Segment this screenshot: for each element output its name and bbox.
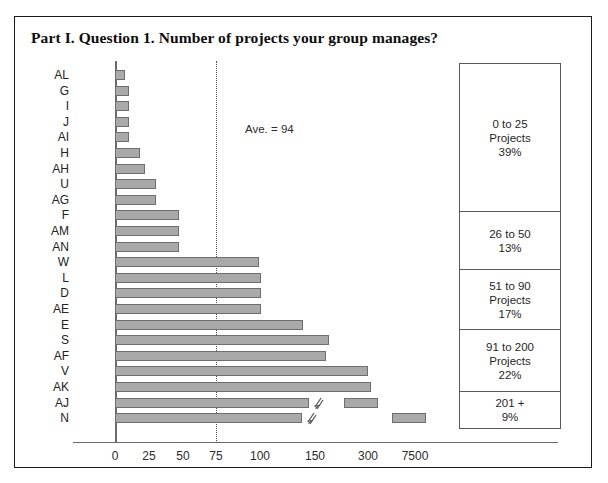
bar xyxy=(115,242,179,252)
legend-category-box: 26 to 5013% xyxy=(460,212,560,270)
bar xyxy=(115,226,179,236)
bar xyxy=(115,70,125,80)
bar-category-label: AI xyxy=(9,130,69,145)
legend-percent: 22% xyxy=(498,368,521,382)
x-tick-label: 75 xyxy=(209,449,222,463)
bar-category-label: N xyxy=(9,411,69,426)
bar-category-label: G xyxy=(9,84,69,99)
bar xyxy=(115,382,371,392)
bar-category-label: S xyxy=(9,333,69,348)
legend-unit: Projects xyxy=(489,131,531,145)
legend-unit: Projects xyxy=(489,293,531,307)
legend-category-stack: 0 to 25Projects39%26 to 5013%51 to 90Pro… xyxy=(459,63,561,429)
legend-range: 201 + xyxy=(495,396,524,410)
bar xyxy=(115,398,309,408)
bar-category-label: D xyxy=(9,286,69,301)
x-tick-label: 150 xyxy=(305,449,325,463)
bar xyxy=(115,288,261,298)
bar-category-label: H xyxy=(9,146,69,161)
bar xyxy=(115,101,129,111)
bar xyxy=(115,148,140,158)
bar xyxy=(115,117,129,127)
x-tick-label: 0 xyxy=(112,449,119,463)
chart-title: Part I. Question 1. Number of projects y… xyxy=(31,29,438,47)
bar-category-label: AE xyxy=(9,302,69,317)
x-tick-label: 300 xyxy=(358,449,378,463)
figure-frame: Part I. Question 1. Number of projects y… xyxy=(14,16,592,468)
x-tick-label: 50 xyxy=(176,449,189,463)
legend-percent: 9% xyxy=(502,410,519,424)
bar-category-label: F xyxy=(9,208,69,223)
bar-category-label: V xyxy=(9,364,69,379)
legend-range: 91 to 200 xyxy=(486,340,534,354)
bar xyxy=(115,195,156,205)
legend-category-box: 91 to 200Projects22% xyxy=(460,330,560,392)
bar-category-label: AM xyxy=(9,224,69,239)
legend-range: 51 to 90 xyxy=(489,279,531,293)
legend-unit: Projects xyxy=(489,354,531,368)
legend-range: 26 to 50 xyxy=(489,227,531,241)
bar-category-label: AN xyxy=(9,240,69,255)
bar-category-label: J xyxy=(9,115,69,130)
bar-category-label: AF xyxy=(9,349,69,364)
legend-percent: 39% xyxy=(498,145,521,159)
axis-break-mark xyxy=(314,395,327,412)
bar-category-label: I xyxy=(9,99,69,114)
bar xyxy=(115,86,129,96)
bar xyxy=(115,304,261,314)
bar xyxy=(115,351,326,361)
axis-break-mark xyxy=(307,410,320,427)
bar xyxy=(115,335,329,345)
bar xyxy=(115,413,302,423)
bar-category-label: E xyxy=(9,318,69,333)
bar xyxy=(115,366,368,376)
legend-category-box: 51 to 90Projects17% xyxy=(460,270,560,330)
bar xyxy=(115,320,303,330)
bar-category-label: AK xyxy=(9,380,69,395)
bar-category-label: U xyxy=(9,177,69,192)
legend-percent: 13% xyxy=(498,241,521,255)
bar-category-label: AH xyxy=(9,162,69,177)
x-tick-label: 25 xyxy=(142,449,155,463)
bar xyxy=(115,179,156,189)
bar xyxy=(115,164,145,174)
bar xyxy=(115,132,129,142)
bar xyxy=(115,257,259,267)
x-tick-label: 100 xyxy=(250,449,270,463)
legend-range: 0 to 25 xyxy=(492,117,527,131)
bar xyxy=(115,273,261,283)
bar xyxy=(115,210,179,220)
bar-category-label: AJ xyxy=(9,396,69,411)
bar-category-label: W xyxy=(9,255,69,270)
x-axis-line xyxy=(73,442,558,444)
x-tick-label: 7500 xyxy=(402,449,429,463)
legend-category-box: 201 +9% xyxy=(460,392,560,428)
bar-category-label: L xyxy=(9,271,69,286)
bar-far-segment xyxy=(392,413,426,423)
legend-category-box: 0 to 25Projects39% xyxy=(460,64,560,212)
bar-category-label: AG xyxy=(9,193,69,208)
legend-percent: 17% xyxy=(498,307,521,321)
bar-far-segment xyxy=(344,398,378,408)
bar-category-label: AL xyxy=(9,68,69,83)
